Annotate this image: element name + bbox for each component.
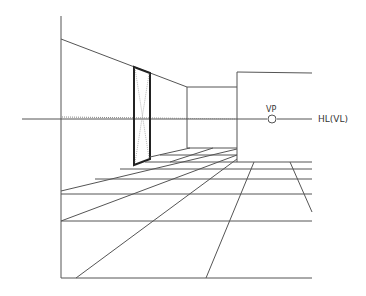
perspective-diagram: VP HL(VL)	[0, 0, 366, 296]
door-frame	[134, 67, 150, 165]
door-diagonal-1	[135, 68, 149, 158]
vanishing-point-label: VP	[266, 105, 276, 114]
floor-recede-2	[61, 155, 237, 221]
floor-recede-6	[150, 148, 190, 157]
right-opening-top	[237, 72, 312, 73]
left-wall-ceiling-line	[61, 39, 187, 87]
horizon-line-label: HL(VL)	[318, 114, 348, 124]
vanishing-point-marker	[268, 115, 276, 123]
